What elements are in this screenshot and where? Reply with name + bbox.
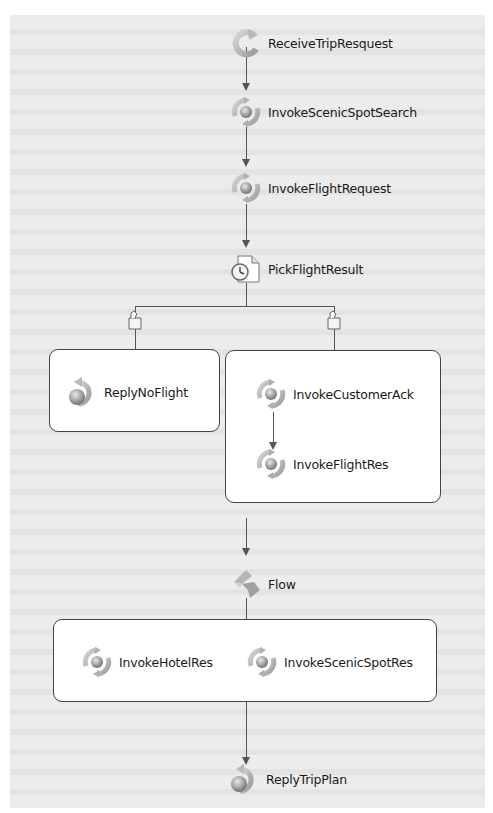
receive-activity-icon	[230, 27, 262, 59]
node-invoke-flight-res[interactable]: InvokeFlightRes	[255, 448, 388, 480]
node-invoke-scenic-spot-res[interactable]: InvokeScenicSpotRes	[246, 646, 413, 678]
arrow-head	[242, 548, 250, 556]
node-label: Flow	[268, 577, 296, 592]
node-label: InvokeHotelRes	[119, 655, 213, 670]
invoke-activity-icon	[230, 172, 262, 204]
invoke-activity-icon	[230, 96, 262, 128]
node-label: ReceiveTripResquest	[268, 36, 393, 51]
reply-activity-icon	[228, 763, 260, 795]
arrow-head	[242, 159, 250, 167]
node-label: InvokeScenicSpotSearch	[268, 105, 417, 120]
node-label: InvokeFlightRes	[293, 457, 388, 472]
invoke-activity-icon	[255, 448, 287, 480]
connector-pick-down	[246, 283, 247, 306]
invoke-activity-icon	[246, 646, 278, 678]
node-label: PickFlightResult	[268, 262, 363, 277]
connector-customer-ack-to-flight-res	[273, 412, 274, 442]
reply-activity-icon	[66, 376, 98, 408]
invoke-activity-icon	[255, 378, 287, 410]
page-top-margin	[0, 0, 493, 14]
node-invoke-flight-request[interactable]: InvokeFlightRequest	[230, 172, 391, 204]
node-flow[interactable]: Flow	[230, 568, 296, 600]
arrow-head	[242, 240, 250, 248]
on-message-case-icon	[326, 310, 342, 330]
node-label: InvokeCustomerAck	[293, 387, 414, 402]
connector-flight-request-to-pick	[246, 204, 247, 240]
connector-flow-to-reply	[246, 702, 247, 757]
node-invoke-customer-ack[interactable]: InvokeCustomerAck	[255, 378, 414, 410]
node-label: InvokeFlightRequest	[268, 181, 391, 196]
invoke-activity-icon	[81, 646, 113, 678]
connector-flow-down	[246, 598, 247, 620]
node-reply-no-flight[interactable]: ReplyNoFlight	[66, 376, 188, 408]
node-label: InvokeScenicSpotRes	[284, 655, 413, 670]
on-message-case-icon	[127, 310, 143, 330]
node-invoke-hotel-res[interactable]: InvokeHotelRes	[81, 646, 213, 678]
connector-pick-split	[135, 306, 335, 307]
pick-branch-flight-found	[225, 350, 441, 503]
node-invoke-scenic-spot-search[interactable]: InvokeScenicSpotSearch	[230, 96, 417, 128]
node-pick-flight-result[interactable]: PickFlightResult	[230, 253, 363, 285]
node-receive-trip-request[interactable]: ReceiveTripResquest	[230, 27, 393, 59]
arrow-head	[242, 83, 250, 91]
node-label: ReplyTripPlan	[266, 772, 347, 787]
node-label: ReplyNoFlight	[104, 385, 188, 400]
pick-timer-icon	[230, 253, 262, 285]
connector-scenic-search-to-flight-request	[246, 127, 247, 159]
flow-activity-icon	[230, 568, 262, 600]
connector-pick-to-flow	[246, 518, 247, 548]
node-reply-trip-plan[interactable]: ReplyTripPlan	[228, 763, 347, 795]
